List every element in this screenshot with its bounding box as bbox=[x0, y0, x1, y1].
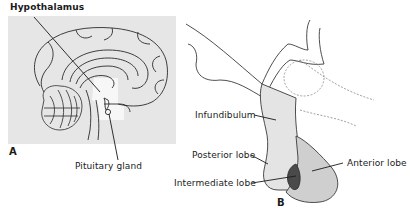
dashed-structure-outline bbox=[284, 60, 374, 126]
pituitary-gland-label: Pituitary gland bbox=[75, 161, 142, 171]
hypothalamus-label: Hypothalamus bbox=[10, 2, 84, 12]
hypothalamus-contour bbox=[186, 20, 324, 98]
intermediate-lobe-label: Intermediate lobe bbox=[174, 178, 256, 188]
anterior-lobe-label: Anterior lobe bbox=[347, 158, 407, 168]
panel-a-letter: A bbox=[9, 146, 17, 157]
panel-a-background bbox=[8, 16, 176, 144]
infundibulum-label: Infundibulum bbox=[195, 110, 256, 120]
posterior-lobe-label: Posterior lobe bbox=[192, 150, 255, 160]
panel-b-letter: B bbox=[277, 197, 285, 208]
